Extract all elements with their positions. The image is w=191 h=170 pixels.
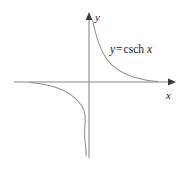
equation-function-name: csch bbox=[124, 43, 144, 55]
x-axis-label: x bbox=[166, 90, 171, 101]
equation-argument: x bbox=[147, 43, 152, 55]
csch-function-figure: y x y=csch x bbox=[0, 0, 191, 170]
y-axis-arrowhead bbox=[86, 12, 93, 20]
csch-curve-negative-branch bbox=[30, 83, 86, 156]
curve-equation-label: y=csch x bbox=[110, 44, 152, 56]
x-axis-arrowhead bbox=[168, 79, 176, 86]
y-axis-label: y bbox=[95, 12, 100, 23]
equation-operator: = bbox=[115, 43, 124, 55]
plot-canvas bbox=[0, 0, 191, 170]
